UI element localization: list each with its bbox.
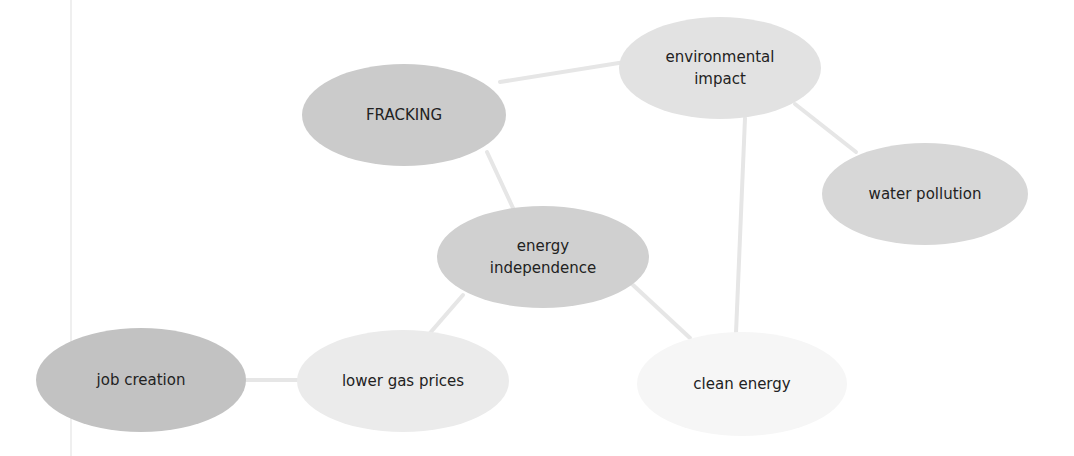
node-label: water pollution [869, 183, 982, 205]
concept-map: FRACKING environmental impact water poll… [0, 0, 1074, 456]
node-water-pollution: water pollution [822, 143, 1028, 245]
edge-environmental-impact-clean-energy [736, 118, 745, 333]
node-fracking: FRACKING [302, 64, 506, 166]
node-label: clean energy [693, 373, 790, 395]
node-label: lower gas prices [342, 370, 464, 392]
node-label: energy independence [483, 235, 603, 279]
node-job-creation: job creation [36, 328, 246, 432]
node-clean-energy: clean energy [637, 332, 847, 436]
edge-fracking-environmental-impact [500, 62, 625, 82]
node-lower-gas-prices: lower gas prices [297, 330, 509, 432]
edge-environmental-impact-water-pollution [795, 104, 856, 152]
edge-fracking-energy-independence [487, 152, 513, 208]
node-energy-independence: energy independence [437, 206, 649, 308]
node-label: environmental impact [665, 46, 775, 90]
node-environmental-impact: environmental impact [619, 17, 821, 119]
edge-energy-independence-lower-gas-prices [430, 295, 463, 333]
node-label: FRACKING [366, 104, 442, 126]
edge-energy-independence-clean-energy [633, 285, 690, 338]
node-label: job creation [97, 369, 186, 391]
